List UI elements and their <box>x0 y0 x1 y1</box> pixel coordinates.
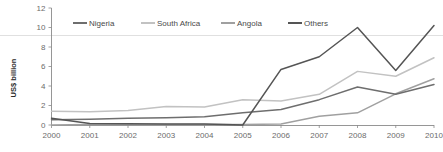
chart-canvas: US$ billion 024681012 200020012002200320… <box>0 0 443 152</box>
y-tick-label: 0 <box>41 121 46 130</box>
x-tick-label: 2008 <box>349 131 367 140</box>
y-tick-label: 4 <box>41 82 46 91</box>
y-tick-label: 12 <box>37 4 46 13</box>
y-tick-label: 2 <box>41 101 46 110</box>
series-lines <box>52 26 435 125</box>
series-line-nigeria <box>52 85 435 120</box>
x-tick-label: 2002 <box>119 131 137 140</box>
legend-label-nigeria[interactable]: Nigeria <box>89 19 115 28</box>
series-line-others <box>52 26 435 125</box>
y-tick-label: 8 <box>41 43 46 52</box>
y-tick-label: 6 <box>41 62 46 71</box>
x-tick-label: 2000 <box>43 131 61 140</box>
y-axis-ticks: 024681012 <box>37 4 52 130</box>
x-tick-label: 2006 <box>272 131 290 140</box>
x-tick-label: 2009 <box>387 131 405 140</box>
y-axis-title: US$ billion <box>9 58 18 97</box>
line-chart: US$ billion 024681012 200020012002200320… <box>0 0 443 152</box>
y-axis-title-text: US$ billion <box>9 58 18 97</box>
y-tick-label: 10 <box>37 23 46 32</box>
x-axis-ticks: 2000200120022003200420052006200720082009… <box>43 125 443 140</box>
x-tick-label: 2001 <box>81 131 99 140</box>
x-tick-label: 2005 <box>234 131 252 140</box>
legend-label-south-africa[interactable]: South Africa <box>157 19 201 28</box>
chart-legend: NigeriaSouth AfricaAngolaOthers <box>73 19 328 28</box>
legend-label-angola[interactable]: Angola <box>237 19 262 28</box>
x-tick-label: 2007 <box>310 131 328 140</box>
x-tick-label: 2003 <box>157 131 175 140</box>
x-tick-label: 2004 <box>196 131 214 140</box>
x-tick-label: 2010 <box>425 131 443 140</box>
legend-label-others[interactable]: Others <box>304 19 328 28</box>
